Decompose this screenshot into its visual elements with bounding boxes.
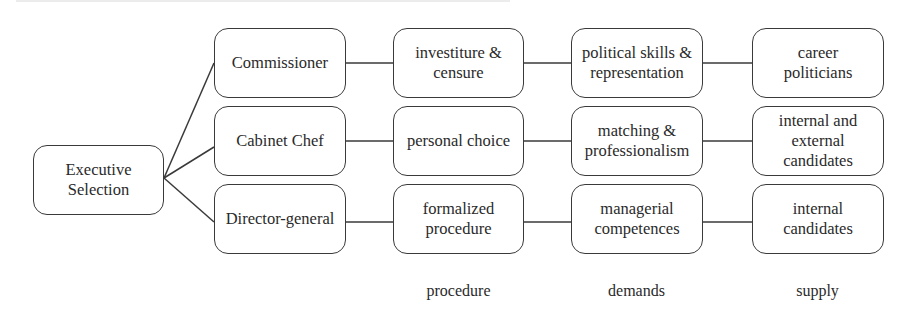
node-label: Cabinet Chef <box>236 131 324 151</box>
node-label: internal candidates <box>783 199 853 239</box>
node-label: matching & professionalism <box>585 121 690 161</box>
cabinet-chef-demands-node: matching & professionalism <box>571 106 703 176</box>
director-general-supply-node: internal candidates <box>752 184 884 254</box>
director-general-procedure-node: formalized procedure <box>393 184 524 254</box>
cabinet-chef-procedure-node: personal choice <box>393 106 524 176</box>
node-label: political skills & representation <box>582 43 692 83</box>
commissioner-demands-node: political skills & representation <box>571 28 703 98</box>
cabinet-chef-supply-node: internal and external candidates <box>752 106 884 176</box>
cabinet-chef-node: Cabinet Chef <box>214 106 346 176</box>
node-label: internal and external candidates <box>779 111 857 171</box>
commissioner-node: Commissioner <box>214 28 346 98</box>
column-label-procedure: procedure <box>393 282 524 300</box>
column-label-demands: demands <box>571 282 702 300</box>
executive-selection-node: Executive Selection <box>33 145 164 215</box>
node-label: formalized procedure <box>423 199 494 239</box>
commissioner-supply-node: career politicians <box>752 28 884 98</box>
node-label: investiture & censure <box>415 43 502 83</box>
node-label: Director-general <box>226 209 335 229</box>
node-label: personal choice <box>407 131 510 151</box>
director-general-demands-node: managerial competences <box>571 184 703 254</box>
node-label: managerial competences <box>594 199 679 239</box>
node-label: Executive Selection <box>66 160 132 200</box>
column-label-supply: supply <box>752 282 883 300</box>
node-label: career politicians <box>784 43 853 83</box>
node-label: Commissioner <box>232 53 328 73</box>
director-general-node: Director-general <box>214 184 346 254</box>
commissioner-procedure-node: investiture & censure <box>393 28 524 98</box>
